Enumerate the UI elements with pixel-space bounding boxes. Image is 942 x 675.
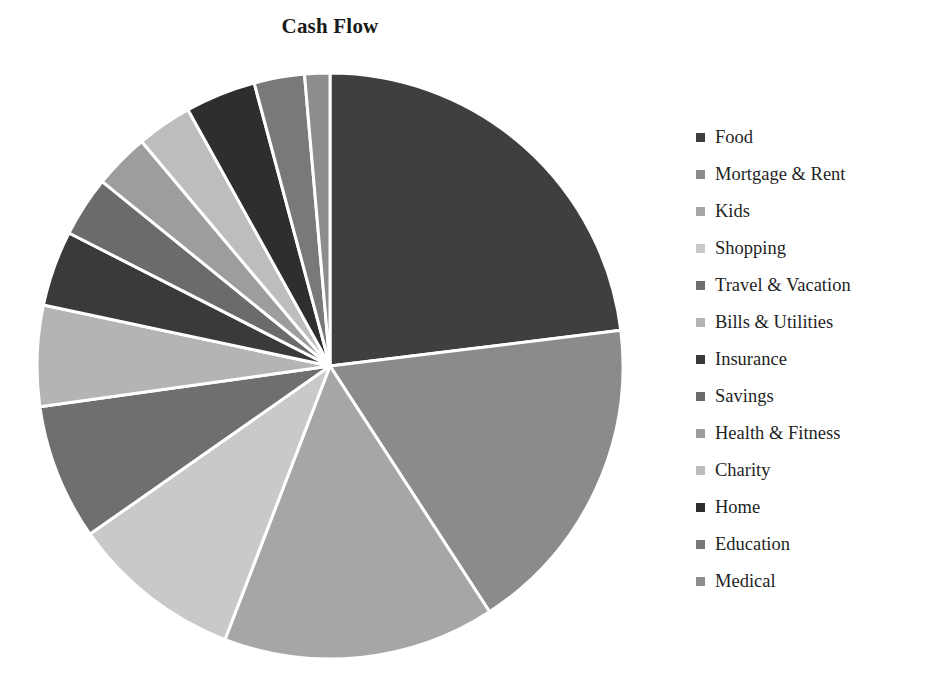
- legend-item-label: Bills & Utilities: [715, 313, 833, 332]
- legend-item-label: Home: [715, 498, 760, 517]
- legend-swatch-icon: [696, 466, 705, 475]
- legend-item[interactable]: Home: [696, 489, 936, 526]
- legend-item[interactable]: Food: [696, 119, 936, 156]
- legend-swatch-icon: [696, 207, 705, 216]
- cash-flow-pie-chart: Cash Flow FoodMortgage & RentKidsShoppin…: [0, 0, 942, 675]
- legend-item-label: Mortgage & Rent: [715, 165, 846, 184]
- chart-legend: FoodMortgage & RentKidsShoppingTravel & …: [696, 119, 936, 600]
- legend-item[interactable]: Kids: [696, 193, 936, 230]
- legend-item-label: Medical: [715, 572, 776, 591]
- legend-item-label: Charity: [715, 461, 771, 480]
- legend-item[interactable]: Bills & Utilities: [696, 304, 936, 341]
- legend-item[interactable]: Savings: [696, 378, 936, 415]
- legend-item-label: Savings: [715, 387, 774, 406]
- legend-item[interactable]: Mortgage & Rent: [696, 156, 936, 193]
- pie-svg: [0, 0, 660, 675]
- legend-swatch-icon: [696, 355, 705, 364]
- legend-item-label: Health & Fitness: [715, 424, 840, 443]
- pie-plot-area: [0, 0, 660, 675]
- legend-item-label: Travel & Vacation: [715, 276, 851, 295]
- legend-swatch-icon: [696, 170, 705, 179]
- legend-item[interactable]: Charity: [696, 452, 936, 489]
- legend-swatch-icon: [696, 244, 705, 253]
- legend-item[interactable]: Insurance: [696, 341, 936, 378]
- legend-swatch-icon: [696, 281, 705, 290]
- legend-swatch-icon: [696, 318, 705, 327]
- legend-swatch-icon: [696, 503, 705, 512]
- legend-item-label: Food: [715, 128, 753, 147]
- legend-item[interactable]: Medical: [696, 563, 936, 600]
- legend-item[interactable]: Travel & Vacation: [696, 267, 936, 304]
- legend-swatch-icon: [696, 577, 705, 586]
- legend-item-label: Education: [715, 535, 790, 554]
- legend-swatch-icon: [696, 392, 705, 401]
- legend-item-label: Shopping: [715, 239, 786, 258]
- legend-swatch-icon: [696, 429, 705, 438]
- legend-item-label: Kids: [715, 202, 750, 221]
- legend-item[interactable]: Shopping: [696, 230, 936, 267]
- pie-slice-group: [37, 73, 623, 659]
- legend-swatch-icon: [696, 540, 705, 549]
- legend-item[interactable]: Education: [696, 526, 936, 563]
- legend-swatch-icon: [696, 133, 705, 142]
- legend-item-label: Insurance: [715, 350, 787, 369]
- legend-item[interactable]: Health & Fitness: [696, 415, 936, 452]
- pie-slice[interactable]: [330, 73, 621, 366]
